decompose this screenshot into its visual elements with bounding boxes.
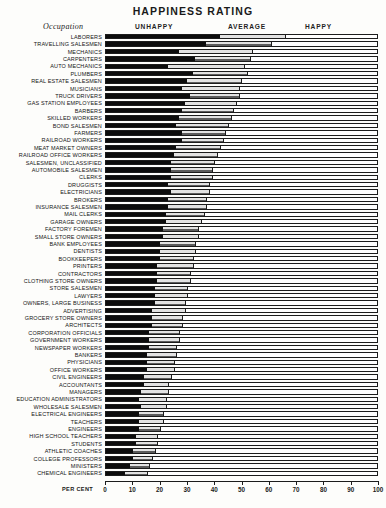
bar-track: [105, 330, 378, 335]
bar-row: [105, 86, 378, 91]
bar-segment-average: [168, 198, 207, 201]
bar-track: [105, 138, 378, 143]
bar-segment-unhappy: [106, 124, 176, 127]
bar-segment-unhappy: [106, 301, 155, 304]
bar-track: [105, 167, 378, 172]
x-axis-tick: [132, 481, 133, 485]
bar-segment-average: [160, 242, 196, 245]
bar-segment-unhappy: [106, 50, 179, 53]
occupation-label: MAIL CLERKS: [0, 211, 102, 217]
bar-segment-average: [168, 205, 207, 208]
bar-track: [105, 426, 378, 431]
bar-segment-unhappy: [106, 353, 147, 356]
occupation-label: DENTISTS: [0, 248, 102, 254]
bar-segment-unhappy: [106, 331, 149, 334]
bar-segment-average: [136, 442, 159, 445]
occupation-label: GAS STATION EMPLOYEES: [0, 100, 102, 106]
bar-track: [105, 411, 378, 416]
bar-segment-unhappy: [106, 242, 160, 245]
bar-track: [105, 34, 378, 39]
bar-segment-average: [147, 368, 175, 371]
x-axis-tick: [242, 481, 243, 485]
occupation-label: INSURANCE SALESMEN: [0, 204, 102, 210]
bar-segment-unhappy: [106, 42, 206, 45]
bar-track: [105, 64, 378, 69]
bar-segment-average: [176, 124, 228, 127]
x-axis-tick-label: 50: [238, 486, 245, 493]
bar-row: [105, 411, 378, 416]
legend-label-happy: HAPPY: [305, 23, 332, 30]
bar-row: [105, 300, 378, 305]
x-axis-tick-label: 70: [293, 486, 300, 493]
bar-segment-average: [168, 65, 245, 68]
bar-row: [105, 241, 378, 246]
bar-segment-unhappy: [106, 205, 168, 208]
bar-segment-unhappy: [106, 161, 171, 164]
bar-row: [105, 204, 378, 209]
bar-segment-unhappy: [106, 227, 163, 230]
bar-segment-unhappy: [106, 412, 139, 415]
bar-segment-unhappy: [106, 324, 152, 327]
bar-row: [105, 308, 378, 313]
bar-track: [105, 315, 378, 320]
bar-segment-average: [139, 420, 164, 423]
bar-segment-average: [149, 346, 177, 349]
bar-segment-unhappy: [106, 190, 171, 193]
bar-segment-average: [185, 102, 237, 105]
bar-row: [105, 286, 378, 291]
occupation-label: MUSICIANS: [0, 86, 102, 92]
bar-row: [105, 345, 378, 350]
bar-track: [105, 337, 378, 342]
bar-row: [105, 130, 378, 135]
bar-segment-unhappy: [106, 279, 157, 282]
bar-row: [105, 263, 378, 268]
occupation-label: HIGH SCHOOL TEACHERS: [0, 433, 102, 439]
bar-segment-unhappy: [106, 131, 182, 134]
x-axis-tick-label: 10: [129, 486, 136, 493]
occupation-label: EDUCATION ADMINISTRATORS: [0, 396, 102, 402]
x-axis-tick: [296, 481, 297, 485]
occupation-label: CORPORATION OFFICIALS: [0, 330, 102, 336]
x-axis-tick-label: 20: [156, 486, 163, 493]
occupation-label: REAL ESTATE SALESMEN: [0, 78, 102, 84]
bar-segment-average: [182, 87, 240, 90]
bar-segment-average: [171, 161, 215, 164]
bar-row: [105, 367, 378, 372]
x-axis-tick: [105, 481, 106, 485]
occupation-label: CLERKS: [0, 174, 102, 180]
bar-segment-average: [160, 250, 196, 253]
bar-track: [105, 249, 378, 254]
bar-row: [105, 456, 378, 461]
occupation-label: RAILROAD OFFICE WORKERS: [0, 152, 102, 158]
bar-segment-average: [139, 412, 164, 415]
bar-segment-average: [144, 383, 169, 386]
bar-segment-unhappy: [106, 79, 187, 82]
bar-track: [105, 241, 378, 246]
bar-segment-average: [220, 35, 286, 38]
bar-segment-average: [171, 190, 210, 193]
bar-segment-average: [157, 279, 191, 282]
bar-row: [105, 293, 378, 298]
occupation-label: SALESMEN, UNCLASSIFIED: [0, 160, 102, 166]
bar-track: [105, 256, 378, 261]
bar-segment-average: [141, 390, 169, 393]
x-axis-tick-label: 80: [320, 486, 327, 493]
bar-track: [105, 323, 378, 328]
bar-row: [105, 189, 378, 194]
bar-row: [105, 337, 378, 342]
bar-segment-unhappy: [106, 183, 168, 186]
occupation-label: BANKERS: [0, 352, 102, 358]
bar-segment-unhappy: [106, 213, 166, 216]
bar-segment-average: [141, 405, 166, 408]
bar-row: [105, 115, 378, 120]
bar-segment-average: [139, 398, 167, 401]
bar-segment-average: [139, 427, 162, 430]
bar-segment-unhappy: [106, 361, 147, 364]
bar-segment-average: [171, 176, 213, 179]
occupation-label: ELECTRICIANS: [0, 189, 102, 195]
legend-label-unhappy: UNHAPPY: [135, 23, 173, 30]
bar-row: [105, 419, 378, 424]
bar-row: [105, 138, 378, 143]
bar-segment-average: [179, 50, 253, 53]
bar-row: [105, 441, 378, 446]
